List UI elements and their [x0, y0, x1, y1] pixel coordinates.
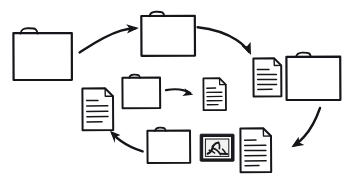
node-document-middle[interactable] [203, 78, 226, 110]
diagram-svg [0, 0, 356, 187]
arrow-right-down [291, 108, 320, 147]
arrow-top-to-document [198, 27, 251, 55]
node-folder-large-left[interactable] [13, 28, 72, 80]
node-document-bottom-right[interactable] [240, 128, 271, 172]
node-image-file[interactable] [200, 134, 234, 161]
node-folder-right[interactable] [286, 53, 340, 100]
node-folder-small-middle[interactable] [122, 75, 160, 109]
node-folder-top-middle[interactable] [141, 12, 195, 56]
node-document-upper-right[interactable] [253, 58, 281, 96]
arrow-left-to-top [80, 24, 139, 52]
arrow-small-folder-to-document [166, 88, 193, 96]
arrow-bottom-to-left-document [110, 131, 143, 152]
diagram-canvas: Folders, documents and image file flow s… [0, 0, 356, 187]
node-folder-bottom-middle[interactable] [147, 128, 190, 163]
node-document-left[interactable] [82, 88, 113, 130]
